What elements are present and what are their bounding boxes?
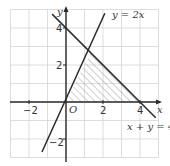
y-tick-label-4: 4 — [56, 23, 62, 34]
x-tick-label-4: 4 — [137, 105, 143, 116]
line-label-x-plus-y-equals-4: x + y = 4 — [127, 121, 170, 132]
line-label-y-equals-2x: y = 2x — [111, 9, 145, 20]
y-axis-label: y — [56, 6, 63, 17]
coordinate-graph: x y O −2 2 4 4 2 −2 y = 2x x + y = 4 — [0, 0, 170, 166]
x-axis-label: x — [157, 104, 163, 115]
x-tick-label-2: 2 — [100, 105, 106, 116]
y-tick-label-neg2: −2 — [49, 137, 64, 148]
x-tick-label-neg2: −2 — [23, 105, 38, 116]
y-axis-arrow-icon — [64, 6, 69, 12]
origin-label: O — [69, 104, 77, 115]
y-tick-label-2: 2 — [56, 60, 62, 71]
